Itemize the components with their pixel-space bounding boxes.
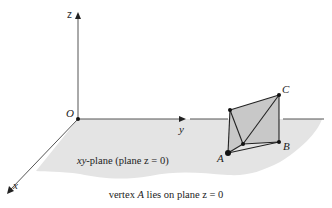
caption: vertex A lies on plane z = 0 xyxy=(109,189,224,200)
vertex-a xyxy=(225,150,231,156)
vertex-inner xyxy=(241,142,245,146)
vertex-top xyxy=(228,108,232,112)
plane-label: xy-plane (plane z = 0) xyxy=(76,155,169,167)
z-axis-arrowhead-icon xyxy=(75,12,81,19)
vertex-c xyxy=(277,93,281,97)
vertex-a-label: A xyxy=(216,152,224,164)
origin-point xyxy=(76,117,80,121)
vertex-c-label: C xyxy=(282,83,290,95)
y-axis-label: y xyxy=(178,123,184,135)
diagram-canvas: z O y x C B A xy-plane (plane z = 0) ver… xyxy=(0,0,332,208)
z-axis-label: z xyxy=(67,9,72,20)
x-axis-label: x xyxy=(12,179,18,191)
vertex-b-label: B xyxy=(283,140,290,152)
vertex-b xyxy=(277,140,281,144)
origin-label: O xyxy=(66,107,74,119)
